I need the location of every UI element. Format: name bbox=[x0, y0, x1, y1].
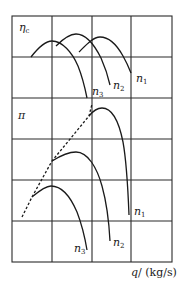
pressure-label-n2: n2 bbox=[113, 236, 125, 250]
x-axis-label: q/ (kg/s) bbox=[131, 266, 177, 279]
pressure-label-n1: n1 bbox=[134, 205, 146, 219]
pressure-ratio-axis-label: π bbox=[17, 109, 26, 122]
compressor-map-diagram: ηc π n1 n2 n3 n1 n2 n3 q/ (kg/s) bbox=[0, 0, 185, 288]
pressure-curve-n3 bbox=[32, 186, 87, 250]
efficiency-curve-n2 bbox=[56, 34, 110, 85]
grid bbox=[12, 16, 172, 262]
pressure-label-n3: n3 bbox=[74, 242, 86, 256]
pressure-ratio-curves bbox=[22, 104, 129, 250]
efficiency-axis-label: ηc bbox=[19, 21, 30, 35]
efficiency-label-n3: n3 bbox=[92, 85, 104, 99]
labels: ηc π n1 n2 n3 n1 n2 n3 q/ (kg/s) bbox=[17, 21, 177, 279]
efficiency-label-n1: n1 bbox=[136, 72, 148, 86]
efficiency-curve-n3 bbox=[31, 41, 87, 98]
pressure-curve-n2 bbox=[52, 152, 110, 241]
pressure-curve-n1 bbox=[89, 108, 129, 215]
surge-line bbox=[22, 104, 92, 217]
efficiency-label-n2: n2 bbox=[113, 79, 125, 93]
